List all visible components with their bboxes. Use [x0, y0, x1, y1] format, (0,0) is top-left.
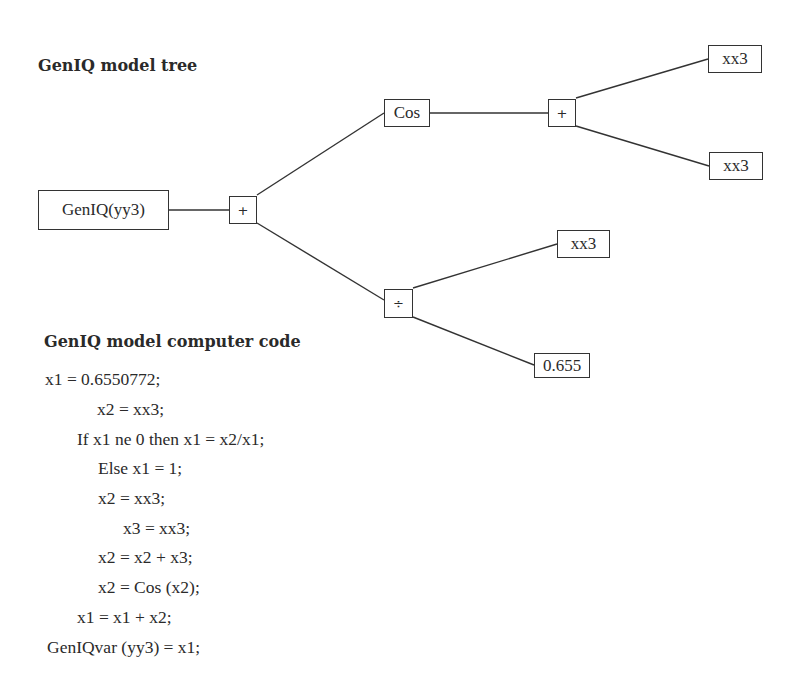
code-line: x1 = 0.6550772;: [45, 369, 160, 390]
edge-plus-xx3b: [576, 126, 709, 166]
node-const: 0.655: [534, 353, 590, 378]
code-line: x3 = xx3;: [123, 518, 190, 539]
code-line: x2 = x2 + x3;: [98, 547, 193, 568]
node-cos: Cos: [384, 99, 430, 127]
node-divide: ÷: [384, 289, 413, 318]
code-line: x1 = x1 + x2;: [77, 607, 172, 628]
edge-plus-cos: [257, 113, 384, 195]
code-line: Else x1 = 1;: [98, 458, 182, 479]
node-xx3-a: xx3: [708, 45, 762, 73]
code-line: x2 = xx3;: [98, 488, 165, 509]
node-root: GenIQ(yy3): [38, 190, 169, 230]
code-line: If x1 ne 0 then x1 = x2/x1;: [77, 429, 264, 450]
node-xx3-c: xx3: [557, 230, 610, 258]
node-xx3-b: xx3: [709, 152, 763, 180]
code-line: GenIQvar (yy3) = x1;: [47, 637, 200, 658]
edge-divide-xx3c: [413, 244, 557, 288]
edge-plus-xx3a: [576, 59, 708, 98]
edge-divide-const: [413, 317, 534, 365]
node-plus-upper: +: [548, 99, 576, 127]
code-line: x2 = Cos (x2);: [98, 577, 200, 598]
edge-plus-divide: [257, 223, 384, 300]
code-line: x2 = xx3;: [97, 399, 164, 420]
code-title: GenIQ model computer code: [44, 332, 301, 351]
node-plus-main: +: [229, 196, 257, 224]
